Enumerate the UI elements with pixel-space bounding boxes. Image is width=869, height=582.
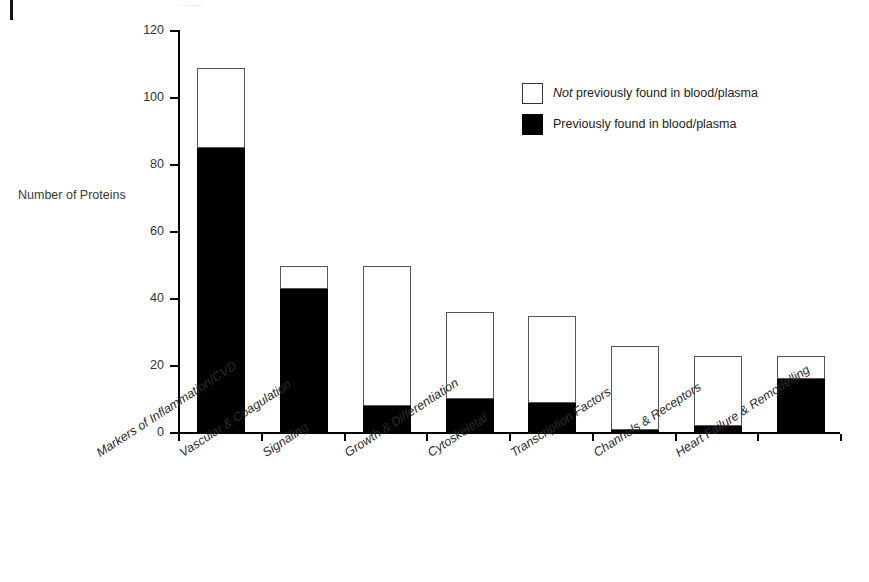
legend-label-previously-found: Previously found in blood/plasma (553, 117, 736, 131)
y-tick-label: 40 (118, 291, 164, 305)
y-tick (170, 30, 178, 32)
y-tick-label-wrap: 20 (118, 366, 164, 367)
bar-segment-not-previously-found (197, 68, 245, 148)
bar-2 (280, 266, 328, 434)
y-tick-label: 80 (118, 157, 164, 171)
y-tick (170, 97, 178, 99)
y-tick-label: 100 (118, 90, 164, 104)
legend-rest: previously found in blood/plasma (572, 86, 758, 100)
y-tick (170, 231, 178, 233)
bar-segment-not-previously-found (280, 266, 328, 289)
legend-emphasis: Not (553, 86, 572, 100)
y-axis-line (178, 30, 180, 434)
y-tick-label: 120 (118, 23, 164, 37)
x-tick (757, 434, 759, 441)
x-tick (261, 434, 263, 441)
bar-segment-not-previously-found (363, 266, 411, 407)
y-tick (170, 298, 178, 300)
x-tick (344, 434, 346, 441)
x-tick (840, 434, 842, 441)
legend-swatch-open-icon (522, 83, 543, 104)
x-tick (426, 434, 428, 441)
legend-swatch-filled-icon (522, 114, 543, 135)
y-tick (170, 432, 178, 434)
bar-segment-not-previously-found (528, 316, 576, 403)
legend-item: Previously found in blood/plasma (522, 113, 822, 135)
y-tick-label: 60 (118, 224, 164, 238)
y-tick (170, 365, 178, 367)
legend-label-not-previously-found: Not previously found in blood/plasma (553, 86, 758, 100)
bar-segment-previously-found (280, 289, 328, 433)
x-tick (592, 434, 594, 441)
y-tick-label-wrap: 100 (118, 98, 164, 99)
y-axis-title: Number of Proteins (18, 188, 126, 202)
y-tick (170, 164, 178, 166)
x-tick (509, 434, 511, 441)
bar-4 (446, 312, 494, 433)
chart-legend: Not previously found in blood/plasma Pre… (522, 82, 822, 144)
x-tick (178, 434, 180, 441)
y-tick-label-wrap: 80 (118, 165, 164, 166)
y-tick-label-wrap: 60 (118, 232, 164, 233)
stacked-bar-chart: Number of Proteins 020406080100120 Marke… (0, 0, 869, 582)
y-tick-label-wrap: 120 (118, 31, 164, 32)
legend-item: Not previously found in blood/plasma (522, 82, 822, 104)
x-tick (675, 434, 677, 441)
y-tick-label-wrap: 40 (118, 299, 164, 300)
y-tick-label: 20 (118, 358, 164, 372)
